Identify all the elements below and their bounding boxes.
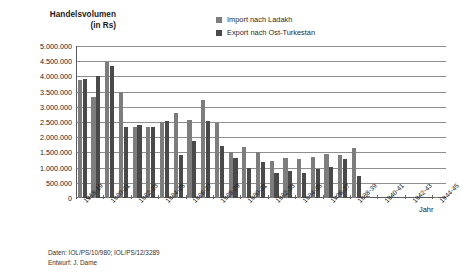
bar-export — [220, 146, 224, 198]
bar-import — [105, 62, 109, 198]
x-axis-tick — [90, 195, 91, 199]
bar-group — [77, 46, 91, 198]
bar-group — [214, 46, 228, 198]
bar-group — [228, 46, 242, 198]
x-axis-tick — [131, 195, 132, 199]
bar-group — [118, 46, 132, 198]
bar-export — [192, 141, 196, 198]
bar-export — [137, 125, 141, 198]
bar-export — [165, 121, 169, 198]
x-axis-tick — [350, 195, 351, 199]
bar-group — [365, 46, 379, 198]
x-axis-tick — [172, 195, 173, 199]
x-axis-tick — [158, 195, 159, 199]
bar-group — [255, 46, 269, 198]
source-note: Daten: IOL/PS/10/980; IOL/PS/12/3289 Ent… — [48, 248, 160, 267]
x-axis-tick — [103, 195, 104, 199]
bar-group — [296, 46, 310, 198]
bar-group — [338, 46, 352, 198]
bar-import — [324, 154, 328, 198]
chart-legend: Import nach LadakhExport nach Ost-Turkes… — [216, 14, 315, 40]
x-axis-tick — [268, 195, 269, 199]
legend-item-import: Import nach Ladakh — [216, 14, 315, 25]
bar-group — [310, 46, 324, 198]
legend-item-export: Export nach Ost-Turkestan — [216, 27, 315, 38]
x-axis-tick — [405, 195, 406, 199]
bar-group — [420, 46, 434, 198]
bar-import — [160, 122, 164, 198]
legend-swatch-export — [216, 30, 222, 36]
bar-group — [159, 46, 173, 198]
bar-groups — [76, 46, 446, 198]
x-axis-tick — [227, 195, 228, 199]
legend-label-import: Import nach Ladakh — [227, 15, 292, 24]
bar-group — [433, 46, 447, 198]
bar-import — [119, 92, 123, 198]
bar-export — [83, 79, 87, 198]
y-axis-tick-label: 1.500.000 — [40, 148, 72, 157]
bar-import — [297, 159, 301, 198]
bar-group — [324, 46, 338, 198]
x-axis-tick — [309, 195, 310, 199]
bar-group — [201, 46, 215, 198]
bar-import — [91, 97, 95, 198]
bar-group — [269, 46, 283, 198]
bar-group — [283, 46, 297, 198]
x-axis-tick — [117, 195, 118, 199]
bar-group — [187, 46, 201, 198]
bar-import — [352, 148, 356, 198]
x-axis-tick — [377, 195, 378, 199]
x-axis-tick — [391, 195, 392, 199]
y-axis-tick-label: 2.000.000 — [40, 133, 72, 142]
y-axis-tick-label: 1.000.000 — [40, 163, 72, 172]
y-axis-tick-label: 4.500.000 — [40, 57, 72, 66]
x-axis-tick — [240, 195, 241, 199]
x-axis-tick — [186, 195, 187, 199]
legend-label-export: Export nach Ost-Turkestan — [227, 28, 315, 37]
source-author-line: Entwurf: J. Dame — [48, 258, 160, 268]
x-axis-tick — [323, 195, 324, 199]
plot-area — [76, 46, 446, 198]
bar-group — [379, 46, 393, 198]
chart-title: Handelsvolumen (in Rs) — [8, 9, 116, 31]
chart-title-unit: (in Rs) — [8, 20, 116, 31]
x-axis-title: Jahr — [419, 205, 433, 214]
bar-export — [96, 76, 100, 198]
chart-title-main: Handelsvolumen — [8, 9, 116, 20]
x-axis-tick — [295, 195, 296, 199]
bar-import — [78, 80, 82, 198]
x-axis-tick — [199, 195, 200, 199]
bar-group — [91, 46, 105, 198]
source-data-line: Daten: IOL/PS/10/980; IOL/PS/12/3289 — [48, 248, 160, 258]
y-axis-tick-label: 2.500.000 — [40, 118, 72, 127]
bar-group — [351, 46, 365, 198]
x-axis-tick — [364, 195, 365, 199]
legend-swatch-import — [216, 17, 222, 23]
x-axis-tick — [282, 195, 283, 199]
x-axis-tick — [336, 195, 337, 199]
bar-group — [132, 46, 146, 198]
y-axis-tick-label: 4.000.000 — [40, 72, 72, 81]
bar-group — [105, 46, 119, 198]
y-axis-tick-label: 3.000.000 — [40, 102, 72, 111]
bar-group — [173, 46, 187, 198]
x-axis-tick — [432, 195, 433, 199]
bar-group — [242, 46, 256, 198]
x-axis-tick — [76, 195, 77, 199]
bar-import — [242, 147, 246, 198]
x-axis-tick — [254, 195, 255, 199]
bar-group — [392, 46, 406, 198]
x-axis-tick — [419, 195, 420, 199]
bar-import — [270, 161, 274, 198]
y-axis-labels: 5.000.0004.500.0004.000.0003.500.0003.00… — [14, 40, 72, 204]
x-axis-tick — [213, 195, 214, 199]
y-axis-tick-label: 500.000 — [46, 178, 72, 187]
x-axis-labels: 1918-191920-211922-231924-251926-271928-… — [76, 199, 446, 245]
y-axis-tick-label: 0 — [68, 194, 72, 203]
bar-import — [187, 120, 191, 198]
bar-import — [133, 127, 137, 198]
bar-group — [146, 46, 160, 198]
y-axis-tick-label: 3.500.000 — [40, 87, 72, 96]
bar-import — [215, 123, 219, 198]
